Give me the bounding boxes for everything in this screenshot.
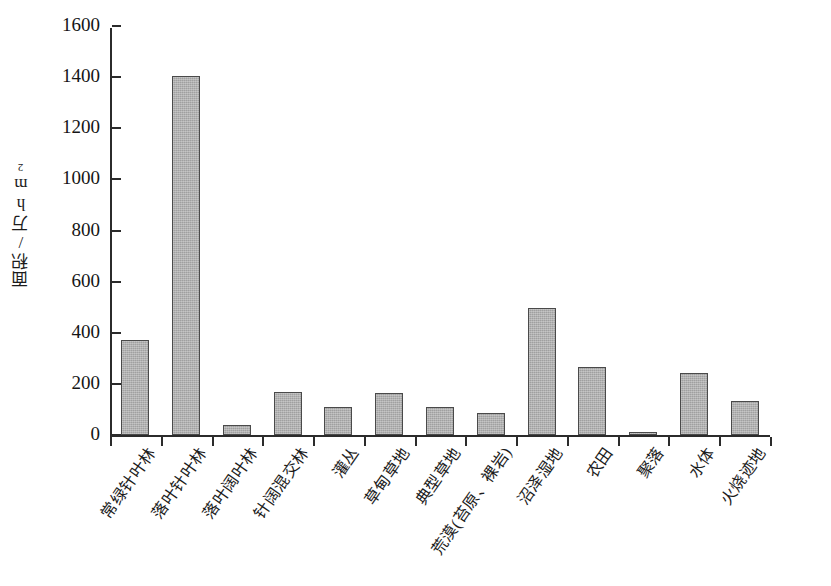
y-axis-tick-mark bbox=[112, 76, 121, 78]
y-axis-title-text: 面积/万hm bbox=[13, 175, 30, 289]
x-axis-tick-mark bbox=[465, 437, 467, 446]
x-axis-category-label: 典型草地 bbox=[412, 444, 465, 508]
x-axis-tick-mark bbox=[262, 437, 264, 446]
bar bbox=[578, 367, 606, 436]
y-axis-tick-label: 1400 bbox=[30, 66, 100, 86]
x-axis-category-label: 草甸草地 bbox=[361, 444, 414, 508]
x-axis-tick-mark bbox=[719, 437, 721, 446]
y-axis-tick-mark bbox=[112, 332, 121, 334]
x-axis-tick-mark bbox=[516, 437, 518, 446]
y-axis-tick-label: 400 bbox=[30, 322, 100, 342]
y-axis-tick-label: 1600 bbox=[30, 15, 100, 35]
x-axis-category-label: 水体 bbox=[685, 444, 719, 481]
bar bbox=[731, 401, 759, 435]
y-axis-tick-label: 200 bbox=[30, 373, 100, 393]
x-axis-tick-mark bbox=[668, 437, 670, 446]
bar-chart-figure: 面积/万hm2 02004006008001000120014001600 常绿… bbox=[0, 0, 831, 586]
x-axis-category-label: 灌丛 bbox=[330, 444, 364, 481]
bar bbox=[477, 413, 505, 435]
y-axis-tick-label: 1000 bbox=[30, 168, 100, 188]
x-axis-tick-mark bbox=[110, 437, 112, 446]
bar bbox=[629, 432, 657, 435]
y-axis-tick-mark bbox=[112, 127, 121, 129]
x-axis-tick-mark bbox=[415, 437, 417, 446]
y-axis-line bbox=[110, 28, 112, 437]
y-axis-tick-mark bbox=[112, 281, 121, 283]
bar bbox=[172, 76, 200, 435]
x-axis-category-label: 农田 bbox=[583, 444, 617, 481]
x-axis-tick-mark bbox=[212, 437, 214, 446]
y-axis-tick-mark bbox=[112, 383, 121, 385]
bar bbox=[680, 373, 708, 435]
x-axis-tick-mark bbox=[770, 437, 772, 446]
bar bbox=[223, 425, 251, 435]
bar bbox=[528, 308, 556, 435]
plot-area: 02004006008001000120014001600 bbox=[110, 28, 770, 437]
y-axis-title-superscript: 2 bbox=[16, 162, 27, 175]
x-axis-tick-mark bbox=[313, 437, 315, 446]
y-axis-tick-label: 800 bbox=[30, 220, 100, 240]
y-axis-tick-mark bbox=[112, 25, 121, 27]
x-axis-tick-mark bbox=[364, 437, 366, 446]
y-axis-tick-mark bbox=[112, 178, 121, 180]
y-axis-tick-mark bbox=[112, 434, 121, 436]
x-axis-tick-mark bbox=[567, 437, 569, 446]
x-axis-line bbox=[110, 435, 770, 437]
bar bbox=[121, 340, 149, 435]
bar bbox=[375, 393, 403, 435]
bar bbox=[426, 407, 454, 435]
x-axis-tick-mark bbox=[618, 437, 620, 446]
bar bbox=[324, 407, 352, 435]
x-axis-category-label: 火烧迹地 bbox=[717, 444, 770, 508]
y-axis-tick-label: 0 bbox=[30, 424, 100, 444]
x-axis-tick-mark bbox=[161, 437, 163, 446]
y-axis-tick-label: 1200 bbox=[30, 117, 100, 137]
y-axis-tick-mark bbox=[112, 230, 121, 232]
x-axis-category-label: 沼泽湿地 bbox=[514, 444, 567, 508]
y-axis-tick-label: 600 bbox=[30, 271, 100, 291]
x-axis-category-label: 聚落 bbox=[634, 444, 668, 481]
bar bbox=[274, 392, 302, 435]
